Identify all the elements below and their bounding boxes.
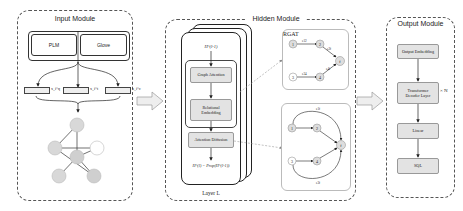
output-flow-arrows (0, 0, 463, 211)
